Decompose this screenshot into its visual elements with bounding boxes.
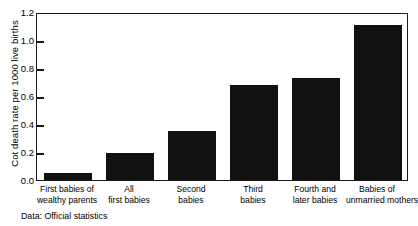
x-axis-category-label-line: First babies of — [36, 184, 98, 195]
y-tick-label: 0.8 — [8, 64, 34, 74]
bar-chart: Cot death rate per 1000 live births 0.0 … — [0, 0, 418, 226]
x-axis-category-label-line: first babies — [98, 195, 160, 206]
bar — [44, 173, 91, 180]
plot-area — [36, 13, 408, 181]
x-axis-category-label-line: babies — [222, 195, 284, 206]
x-axis-category-label-line: Third — [222, 184, 284, 195]
x-axis-category-label: Allfirst babies — [98, 184, 160, 205]
x-axis-category-label-line: Fourth and — [284, 184, 346, 195]
x-axis-category-label-line: Second — [160, 184, 222, 195]
x-axis-category-label-line: wealthy parents — [36, 195, 98, 206]
y-tick-label: 1.0 — [8, 36, 34, 46]
bar — [292, 78, 339, 180]
y-axis-tick-labels: 0.0 0.2 0.4 0.6 0.8 1.0 1.2 — [8, 0, 34, 226]
source-footnote: Data: Official statistics — [21, 211, 107, 221]
x-axis-category-label: Thirdbabies — [222, 184, 284, 205]
x-axis-category-label-line: babies — [160, 195, 222, 206]
y-tick-label: 0.6 — [8, 92, 34, 102]
bar — [106, 153, 153, 180]
x-axis-category-label: Secondbabies — [160, 184, 222, 205]
y-tick-label: 0.4 — [8, 120, 34, 130]
x-axis-category-label-line: Babies of — [346, 184, 408, 195]
y-tick-label: 0.0 — [8, 176, 34, 186]
x-axis-category-label-line: All — [98, 184, 160, 195]
y-tick-label: 0.2 — [8, 148, 34, 158]
bar — [168, 131, 215, 180]
x-axis-category-label-line: later babies — [284, 195, 346, 206]
x-axis-category-label: Fourth andlater babies — [284, 184, 346, 205]
x-axis-category-label: First babies ofwealthy parents — [36, 184, 98, 205]
bar — [354, 25, 401, 180]
bar-series — [37, 14, 407, 180]
y-tick-label: 1.2 — [8, 8, 34, 18]
x-axis-category-labels: First babies ofwealthy parentsAllfirst b… — [36, 184, 408, 210]
x-axis-category-label: Babies ofunmarried mothers — [346, 184, 408, 205]
x-axis-category-label-line: unmarried mothers — [346, 195, 408, 206]
bar — [230, 85, 277, 180]
